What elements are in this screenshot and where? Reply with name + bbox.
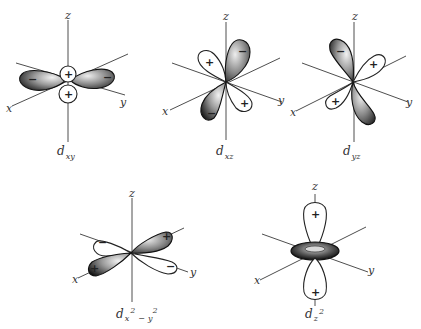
- sign-minus: −: [166, 260, 175, 273]
- sign-minus: −: [98, 236, 107, 249]
- orbital-dx2-y2: − + + − z x y dx2−y2: [72, 187, 197, 323]
- sign-minus: −: [336, 45, 345, 58]
- orbital-label-dz2: dz2: [305, 307, 324, 323]
- sign-plus: +: [331, 95, 340, 108]
- z-label: z: [311, 180, 318, 193]
- sign-plus: +: [162, 230, 171, 243]
- sign-plus: +: [311, 286, 320, 299]
- sign-plus: +: [369, 58, 378, 71]
- orbital-label-dx2-y2: dx2−y2: [116, 306, 158, 323]
- y-label: y: [367, 264, 375, 277]
- d-orbitals-diagram: + + − − z x y dxy + − − + z x y dxz: [0, 0, 421, 329]
- y-label: y: [189, 266, 197, 279]
- sign-minus: −: [207, 107, 216, 120]
- x-label: x: [254, 274, 261, 287]
- orbital-dz2: + + z x y dz2: [254, 180, 375, 323]
- x-label: x: [162, 105, 169, 118]
- sign-plus: +: [64, 88, 73, 101]
- orbital-label-dxy: dxy: [57, 144, 75, 161]
- x-label: x: [72, 273, 79, 286]
- sign-plus: +: [311, 208, 320, 221]
- y-label: y: [277, 94, 285, 107]
- sign-plus: +: [240, 97, 249, 110]
- orbital-dyz: − + + z x y dyz: [290, 10, 413, 161]
- x-label: x: [6, 102, 13, 115]
- sign-minus: −: [103, 71, 112, 84]
- sign-plus: +: [205, 56, 214, 69]
- sign-plus: +: [64, 68, 73, 81]
- z-label: z: [64, 9, 71, 22]
- sign-plus: +: [90, 262, 99, 275]
- z-label: z: [128, 187, 135, 200]
- orbital-dxy: + + − − z x y dxy: [6, 9, 128, 161]
- sign-minus: −: [238, 45, 247, 58]
- z-label: z: [351, 10, 358, 23]
- x-label: x: [290, 106, 297, 119]
- orbital-label-dxz: dxz: [216, 144, 234, 161]
- torus-hole: [305, 246, 325, 252]
- orbital-label-dyz: dyz: [343, 144, 361, 161]
- z-label: z: [222, 10, 229, 23]
- sign-minus: −: [28, 73, 37, 86]
- lobe-shaded-left: [20, 71, 66, 91]
- y-label: y: [119, 96, 127, 109]
- orbital-dxz: + − − + z x y dxz: [162, 10, 285, 161]
- y-label: y: [405, 96, 413, 109]
